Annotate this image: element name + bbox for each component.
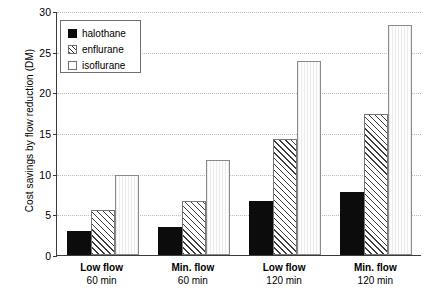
- x-label-primary: Low flow: [56, 262, 147, 275]
- bar-halothane-3: [249, 201, 273, 255]
- bar-enflurane-4: [364, 114, 388, 255]
- bar-chart-figure: Cost savings by flow reduction (DM) 0510…: [0, 0, 427, 290]
- y-tick-label: 10: [39, 169, 51, 181]
- y-tick-label: 15: [39, 128, 51, 140]
- bar-halothane-4: [340, 192, 364, 255]
- x-label-primary: Min. flow: [330, 262, 421, 275]
- bar-halothane-1: [67, 231, 91, 255]
- y-tick-label: 20: [39, 87, 51, 99]
- x-label-primary: Low flow: [239, 262, 330, 275]
- bar-enflurane-1: [91, 210, 115, 255]
- legend-label: enflurane: [82, 44, 124, 55]
- x-axis-group-label: Low flow120 min: [239, 262, 330, 287]
- x-axis-group-label: Min. flow120 min: [330, 262, 421, 287]
- legend-swatch-enflurane-icon: [68, 45, 77, 54]
- legend-swatch-isoflurane-icon: [68, 61, 77, 70]
- legend-item-halothane: halothane: [68, 26, 140, 40]
- x-label-secondary: 120 min: [330, 275, 421, 288]
- legend-item-isoflurane: isoflurane: [68, 58, 140, 72]
- chart-legend: halothaneenfluraneisoflurane: [60, 20, 141, 73]
- legend-swatch-halothane-icon: [68, 29, 77, 38]
- y-tick-label: 0: [45, 250, 51, 262]
- bar-halothane-2: [158, 227, 182, 255]
- y-tick-label: 30: [39, 6, 51, 18]
- x-label-secondary: 60 min: [147, 275, 238, 288]
- x-axis-group-label: Low flow60 min: [56, 262, 147, 287]
- y-tick-label: 25: [39, 47, 51, 59]
- bar-enflurane-2: [182, 201, 206, 255]
- x-label-primary: Min. flow: [147, 262, 238, 275]
- legend-item-enflurane: enflurane: [68, 42, 140, 56]
- x-label-secondary: 120 min: [239, 275, 330, 288]
- bar-isoflurane-3: [297, 61, 321, 255]
- y-tick-mark: [53, 256, 57, 257]
- legend-label: isoflurane: [82, 60, 125, 71]
- x-axis-group-label: Min. flow60 min: [147, 262, 238, 287]
- x-label-secondary: 60 min: [56, 275, 147, 288]
- legend-label: halothane: [82, 28, 126, 39]
- bar-isoflurane-2: [206, 160, 230, 255]
- y-axis-title: Cost savings by flow reduction (DM): [24, 6, 35, 256]
- bar-enflurane-3: [273, 139, 297, 255]
- y-tick-label: 5: [45, 209, 51, 221]
- bar-isoflurane-4: [388, 25, 412, 255]
- bar-isoflurane-1: [115, 175, 139, 255]
